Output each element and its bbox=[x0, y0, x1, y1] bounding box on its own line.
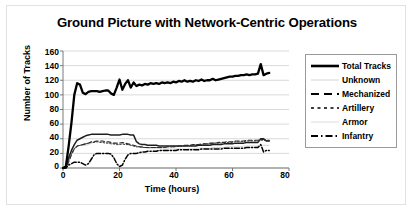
legend-swatch-armor bbox=[310, 117, 340, 127]
legend-swatch-artillery bbox=[310, 103, 340, 113]
legend-label-armor: Armor bbox=[340, 117, 368, 127]
legend-label-infantry: Infantry bbox=[340, 131, 373, 141]
series-line-infantry bbox=[63, 145, 269, 168]
legend-item-armor: Armor bbox=[306, 115, 396, 129]
legend-label-total-tracks: Total Tracks bbox=[340, 61, 391, 71]
legend-item-total-tracks: Total Tracks bbox=[306, 59, 396, 73]
legend-swatch-mechanized bbox=[310, 89, 340, 99]
legend-item-artillery: Artillery bbox=[306, 101, 396, 115]
legend-swatch-unknown bbox=[310, 75, 340, 85]
legend-label-artillery: Artillery bbox=[340, 103, 374, 113]
series-line-total-tracks bbox=[63, 64, 269, 168]
series-line-artillery bbox=[63, 140, 269, 168]
legend-label-mechanized: Mechanized bbox=[340, 89, 390, 99]
legend-item-unknown: Unknown bbox=[306, 73, 396, 87]
legend-swatch-infantry bbox=[310, 131, 340, 141]
legend-swatch-total-tracks bbox=[310, 61, 340, 71]
legend-item-mechanized: Mechanized bbox=[306, 87, 396, 101]
chart-frame: Ground Picture with Network-Centric Oper… bbox=[6, 5, 406, 205]
legend: Total Tracks Unknown Mechanized Artiller… bbox=[305, 54, 397, 148]
legend-label-unknown: Unknown bbox=[340, 75, 380, 85]
legend-item-infantry: Infantry bbox=[306, 129, 396, 143]
data-series-group bbox=[63, 64, 269, 168]
axis-ticks bbox=[60, 51, 289, 171]
